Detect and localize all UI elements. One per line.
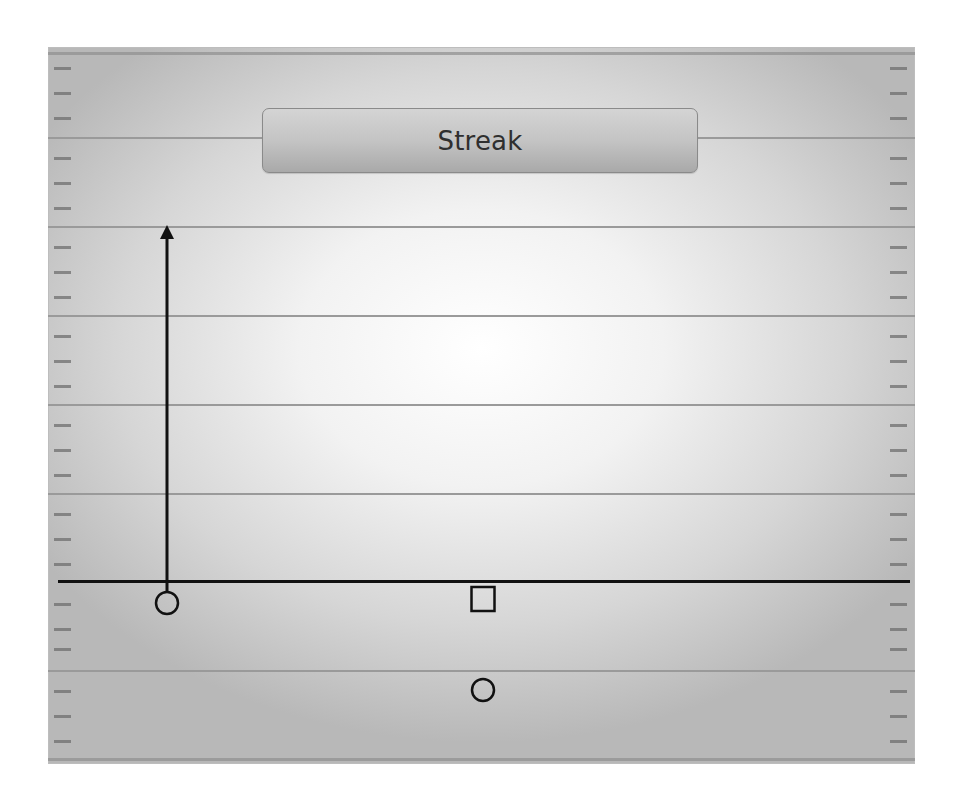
arrowhead-icon	[160, 225, 174, 239]
play-diagram	[48, 47, 915, 764]
football-field: Streak	[48, 47, 915, 764]
player-quarterback	[472, 679, 494, 701]
players	[156, 587, 495, 701]
player-receiver	[156, 592, 178, 614]
routes	[160, 225, 174, 592]
player-center	[472, 587, 495, 611]
